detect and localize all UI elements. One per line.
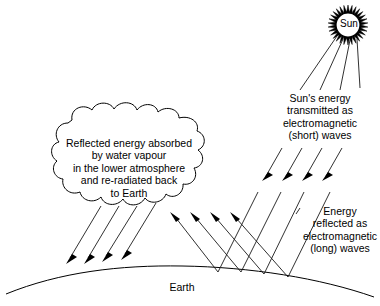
reradiated-arrow-2: [84, 206, 119, 264]
incoming-radiation-arrows: [262, 148, 342, 181]
reradiated-downward-arrows: [66, 203, 156, 264]
incoming-arrow-1: [262, 148, 282, 181]
reflected-arrow-1: [170, 212, 218, 272]
cloud-label: Reflected energy absorbed by water vapou…: [56, 137, 202, 199]
reradiated-arrow-1: [66, 206, 101, 264]
reflected-energy-label: Energy reflected as electromagnetic (lon…: [300, 205, 380, 255]
incoming-arrow-4: [322, 148, 342, 181]
incoming-energy-label: Sun's energy transmitted as electromagne…: [268, 92, 372, 142]
greenhouse-effect-diagram: Sun Reflected energy absorbed by water v…: [0, 0, 380, 306]
reradiated-arrow-3: [102, 206, 137, 262]
reflected-radiation-arrows: [170, 212, 288, 277]
incoming-arrow-3: [302, 148, 322, 181]
reradiated-arrow-4: [121, 203, 156, 260]
sun-ray-lines: [300, 36, 360, 90]
sun-label: Sun: [334, 18, 364, 29]
incoming-arrow-2: [282, 148, 302, 181]
earth-label: Earth: [152, 281, 212, 293]
